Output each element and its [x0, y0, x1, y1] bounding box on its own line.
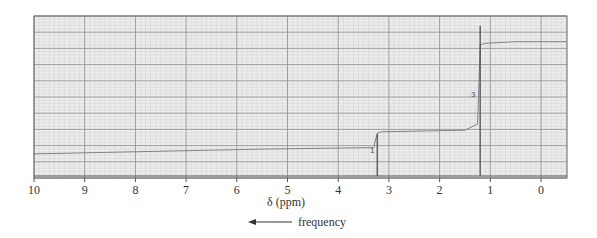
x-tick-label: 8 [132, 183, 138, 197]
x-tick-label: 2 [437, 183, 443, 197]
nmr-spectrum-chart: 109876543210 1 3 δ (ppm) frequency [0, 0, 597, 238]
integration-label-3: 3 [471, 90, 476, 99]
integration-label-1: 1 [370, 146, 375, 155]
x-tick-label: 7 [183, 183, 189, 197]
x-tick-label: 6 [234, 183, 240, 197]
x-tick-label: 4 [335, 183, 341, 197]
x-tick-label: 3 [386, 183, 392, 197]
x-axis-title: δ (ppm) [267, 195, 305, 209]
x-tick-label: 1 [487, 183, 493, 197]
frequency-arrow [248, 219, 292, 225]
x-tick-label: 0 [538, 183, 544, 197]
x-tick-label: 10 [28, 183, 40, 197]
arrow-left-icon [248, 219, 256, 225]
frequency-label: frequency [298, 215, 346, 229]
x-tick-label: 9 [82, 183, 88, 197]
